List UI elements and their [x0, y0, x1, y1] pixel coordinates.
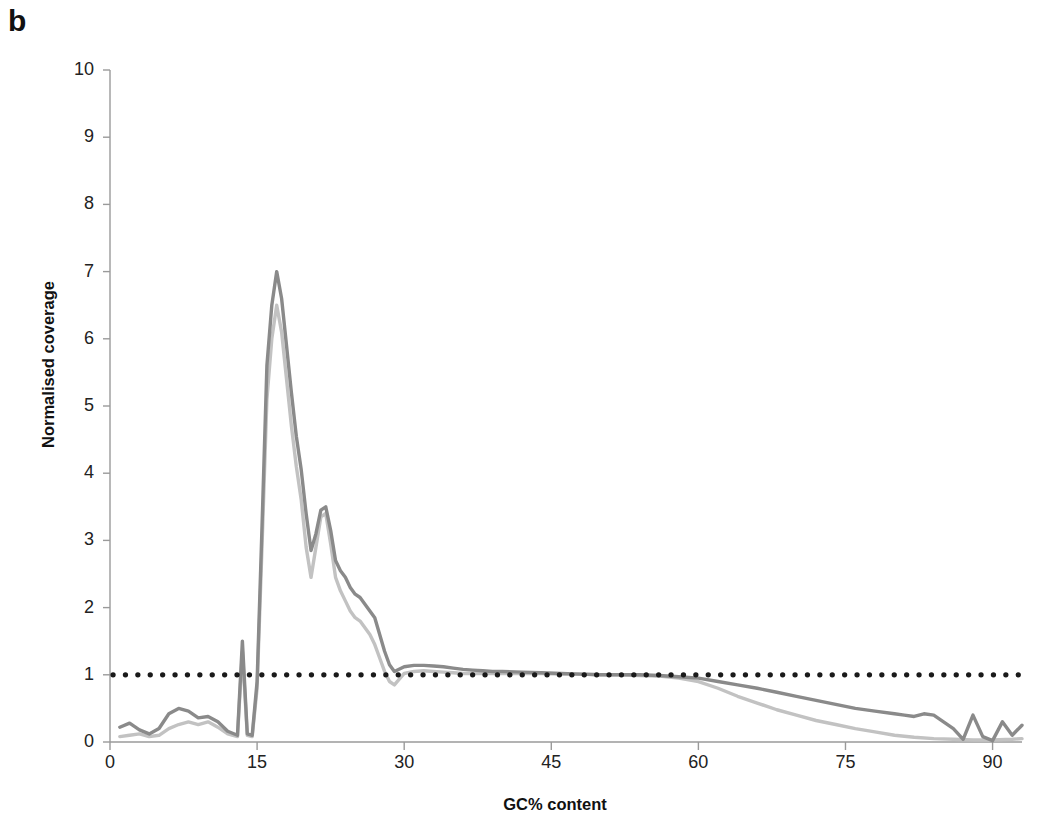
- y-tick-label: 1: [48, 664, 94, 685]
- x-tick-label: 45: [521, 752, 581, 773]
- y-tick-label: 7: [48, 261, 94, 282]
- x-tick-label: 15: [227, 752, 287, 773]
- y-tick-label: 5: [48, 395, 94, 416]
- x-tick-label: 0: [80, 752, 140, 773]
- x-tick-label: 60: [668, 752, 728, 773]
- y-tick-label: 8: [48, 193, 94, 214]
- series-line-sample-dark: [120, 272, 1022, 741]
- y-tick-label: 4: [48, 462, 94, 483]
- y-tick-label: 9: [48, 126, 94, 147]
- y-tick-label: 3: [48, 529, 94, 550]
- chart-plot-area: Normalised coverage GC% content 01234567…: [0, 0, 1039, 836]
- x-tick-label: 30: [374, 752, 434, 773]
- x-axis-title: GC% content: [110, 795, 1000, 814]
- figure-panel: b Normalised coverage GC% content 012345…: [0, 0, 1039, 836]
- x-tick-label: 75: [815, 752, 875, 773]
- chart-svg: [0, 0, 1039, 836]
- y-tick-label: 0: [48, 731, 94, 752]
- y-tick-label: 10: [48, 59, 94, 80]
- y-axis-title: Normalised coverage: [39, 255, 58, 475]
- x-tick-label: 90: [963, 752, 1023, 773]
- y-tick-label: 2: [48, 597, 94, 618]
- y-tick-label: 6: [48, 328, 94, 349]
